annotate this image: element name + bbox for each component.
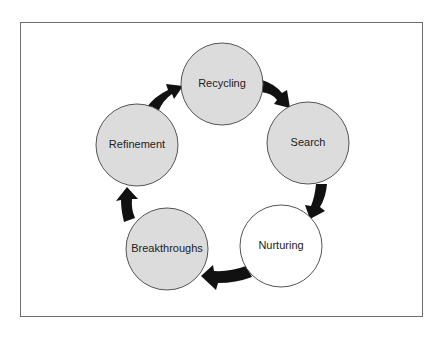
node-recycling: Recycling xyxy=(181,43,263,125)
arrow-nurturing-to-breakthroughs xyxy=(201,265,252,290)
cycle-diagram: Recycling Search Nurturing Breakthroughs… xyxy=(0,0,442,339)
node-nurturing: Nurturing xyxy=(240,205,322,287)
node-label: Search xyxy=(291,136,326,148)
node-label: Recycling xyxy=(198,77,246,89)
node-label: Breakthroughs xyxy=(131,242,203,254)
node-breakthroughs: Breakthroughs xyxy=(126,208,208,290)
node-refinement: Refinement xyxy=(96,104,178,186)
node-label: Nurturing xyxy=(258,239,303,251)
arrow-breakthroughs-to-refinement xyxy=(116,187,138,222)
arrow-search-to-nurturing xyxy=(305,184,327,219)
arrow-recycling-to-search xyxy=(261,80,290,108)
node-label: Refinement xyxy=(109,138,165,150)
node-search: Search xyxy=(267,102,349,184)
